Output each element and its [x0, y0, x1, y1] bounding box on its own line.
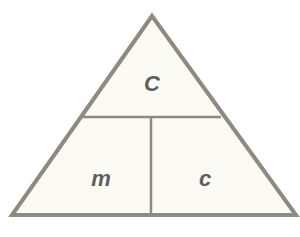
bottom-right-section-label: c — [199, 166, 211, 191]
top-section-label: C — [144, 71, 161, 96]
formula-triangle-diagram: C m c — [0, 0, 300, 237]
triangle-outline — [12, 16, 296, 215]
bottom-left-section-label: m — [91, 166, 111, 191]
